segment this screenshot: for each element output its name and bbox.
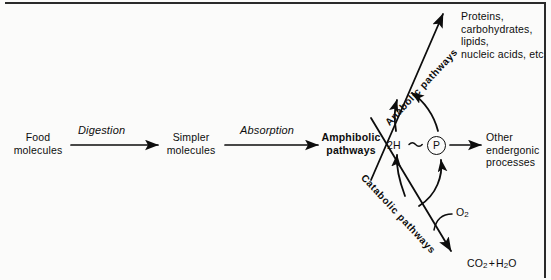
node-reducing-equivalents: 2H — [387, 139, 401, 152]
arrow-catabolic-to-phosphate — [419, 160, 441, 206]
node-high-energy-phosphate: P — [427, 136, 446, 155]
arrow-label-anabolic-pathways: Anabolic pathways — [383, 46, 461, 128]
node-food-molecules: Foodmolecules — [6, 131, 70, 156]
node-macromolecules: Proteins,carbohydrates,lipids,nucleic ac… — [461, 10, 544, 60]
node-simpler-molecules: Simplermolecules — [157, 131, 225, 156]
node-other-endergonic-processes: Otherendergonicprocesses — [486, 131, 539, 169]
arrow-oxygen-input — [434, 214, 452, 230]
top-border-rule — [5, 2, 546, 4]
arrow-label-digestion: Digestion — [78, 124, 125, 137]
metabolism-diagram: Foodmolecules Digestion Simplermolecules… — [0, 0, 551, 280]
node-carbon-dioxide-water: CO2 + H2O — [467, 257, 517, 273]
connector-squiggle-to-phosphate — [409, 143, 422, 147]
right-border-rule — [544, 2, 546, 278]
node-amphibolic-pathways: Amphibolicpathways — [318, 131, 384, 156]
arrow-label-absorption: Absorption — [240, 124, 294, 137]
arrow-label-catabolic-pathways: Catabolic pathways — [358, 172, 438, 257]
arrow-catabolic-to-2H — [397, 155, 405, 196]
node-oxygen: O2 — [456, 206, 469, 222]
